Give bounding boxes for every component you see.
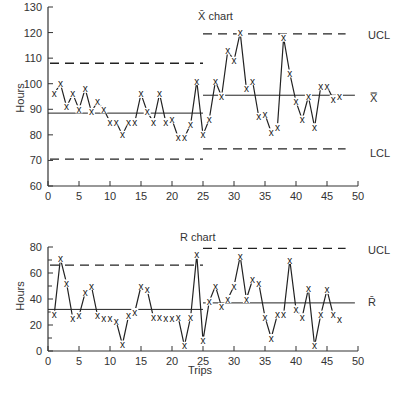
r-data-point-marker: x	[312, 340, 317, 351]
xbar-data-point-marker: x	[238, 27, 243, 38]
r-data-point-marker: x	[306, 283, 311, 294]
r-x-tick-label: 15	[135, 355, 147, 367]
xbar-data-point-marker: x	[207, 114, 212, 125]
r-data-point-marker: x	[101, 313, 106, 324]
r-data-point-marker: x	[269, 333, 274, 344]
r-data-point-marker: x	[281, 309, 286, 320]
r-data-point-marker: x	[151, 312, 156, 323]
xbar-y-tick-label: 70	[30, 154, 42, 166]
r-data-point-marker: x	[77, 310, 82, 321]
r-data-point-marker: x	[244, 294, 249, 305]
xbar-data-point-marker: x	[263, 109, 268, 120]
xbar-data-point-marker: x	[306, 91, 311, 102]
r-data-point-marker: x	[163, 313, 168, 324]
r-data-point-marker: x	[89, 281, 94, 292]
xbar-x-tick-label: 35	[259, 190, 271, 202]
r-data-point-marker: x	[145, 284, 150, 295]
xbar-data-point-marker: x	[213, 76, 218, 87]
xbar-x-tick-label: 40	[290, 190, 302, 202]
r-data-line	[54, 255, 339, 346]
xbar-y-tick-label: 130	[24, 1, 42, 13]
r-data-point-marker: x	[263, 312, 268, 323]
xbar-data-point-marker: x	[194, 76, 199, 87]
xbar-data-point-marker: x	[188, 119, 193, 130]
r-x-tick-label: 40	[290, 355, 302, 367]
xbar-ucl-label: UCL	[368, 29, 390, 41]
r-data-point-marker: x	[337, 314, 342, 325]
xbar-data-point-marker: x	[219, 91, 224, 102]
r-center-label: R̄	[368, 296, 376, 308]
r-y-tick-label: 20	[30, 319, 42, 331]
xbar-data-point-marker: x	[145, 106, 150, 117]
r-series: xxxxxxxxxxxxxxxxxxxxxxxxxxxxxxxxxxxxxxxx…	[51, 249, 343, 351]
r-data-point-marker: x	[176, 312, 181, 323]
r-data-point-marker: x	[213, 281, 218, 292]
r-x-tick-label: 10	[104, 355, 116, 367]
r-data-point-marker: x	[95, 310, 100, 321]
xbar-data-point-marker: x	[126, 117, 131, 128]
r-data-point-marker: x	[120, 339, 125, 350]
xbar-data-point-marker: x	[95, 96, 100, 107]
xbar-x-tick-label: 50	[352, 190, 364, 202]
xbar-data-point-marker: x	[114, 117, 119, 128]
xbar-data-point-marker: x	[337, 91, 342, 102]
xbar-data-point-marker: x	[120, 129, 125, 140]
xbar-data-point-marker: x	[331, 94, 336, 105]
r-data-point-marker: x	[70, 313, 75, 324]
xbar-x-tick-label: 25	[197, 190, 209, 202]
xbar-data-point-marker: x	[52, 88, 57, 99]
xbar-x-tick-label: 0	[45, 190, 51, 202]
xbar-data-point-marker: x	[275, 122, 280, 133]
xbar-data-point-marker: x	[287, 68, 292, 79]
x-axis-title: Trips	[188, 364, 213, 376]
r-data-point-marker: x	[126, 310, 131, 321]
xbar-y-tick-label: 100	[24, 78, 42, 90]
xbar-x-tick-label: 5	[76, 190, 82, 202]
xbar-data-point-marker: x	[132, 117, 137, 128]
xbar-data-point-marker: x	[312, 122, 317, 133]
xbar-chart: X̄ chart Hours 6070809010011012013005101…	[14, 1, 390, 202]
xbar-lcl-label: LCL	[370, 147, 390, 159]
r-data-point-marker: x	[219, 301, 224, 312]
xbar-y-tick-label: 120	[24, 27, 42, 39]
xbar-chart-title: X̄ chart	[198, 10, 233, 22]
xbar-data-point-marker: x	[176, 132, 181, 143]
xbar-data-point-marker: x	[108, 117, 113, 128]
r-x-tick-label: 45	[321, 355, 333, 367]
xbar-data-point-marker: x	[225, 45, 230, 56]
r-chart-title: R chart	[180, 231, 215, 243]
r-y-tick-label: 80	[30, 241, 42, 253]
r-data-point-marker: x	[300, 312, 305, 323]
xbar-data-point-marker: x	[170, 114, 175, 125]
r-data-point-marker: x	[256, 278, 261, 289]
r-data-point-marker: x	[225, 294, 230, 305]
xbar-center-label: X̿	[370, 92, 378, 104]
xbar-x-tick-label: 15	[135, 190, 147, 202]
r-x-tick-label: 0	[45, 355, 51, 367]
r-data-point-marker: x	[182, 340, 187, 351]
r-y-tick-label: 0	[36, 345, 42, 357]
r-x-tick-label: 20	[166, 355, 178, 367]
r-x-tick-label: 5	[76, 355, 82, 367]
r-data-point-marker: x	[238, 251, 243, 262]
xbar-data-point-marker: x	[77, 104, 82, 115]
control-chart-figure: X̄ chart Hours 6070809010011012013005101…	[0, 0, 408, 395]
control-charts-svg: X̄ chart Hours 6070809010011012013005101…	[0, 0, 408, 395]
r-data-point-marker: x	[325, 284, 330, 295]
xbar-data-point-marker: x	[83, 83, 88, 94]
r-data-point-marker: x	[318, 309, 323, 320]
xbar-y-tick-label: 110	[24, 52, 42, 64]
r-y-tick-label: 60	[30, 267, 42, 279]
xbar-data-point-marker: x	[201, 129, 206, 140]
xbar-series: xxxxxxxxxxxxxxxxxxxxxxxxxxxxxxxxxxxxxxxx…	[51, 27, 343, 143]
xbar-data-point-marker: x	[325, 81, 330, 92]
r-data-point-marker: x	[287, 255, 292, 266]
xbar-x-tick-label: 45	[321, 190, 333, 202]
r-data-point-marker: x	[83, 287, 88, 298]
r-data-point-marker: x	[294, 304, 299, 315]
r-data-point-marker: x	[201, 335, 206, 346]
xbar-x-tick-label: 10	[104, 190, 116, 202]
r-x-tick-label: 30	[228, 355, 240, 367]
r-data-point-marker: x	[331, 309, 336, 320]
r-data-point-marker: x	[250, 274, 255, 285]
